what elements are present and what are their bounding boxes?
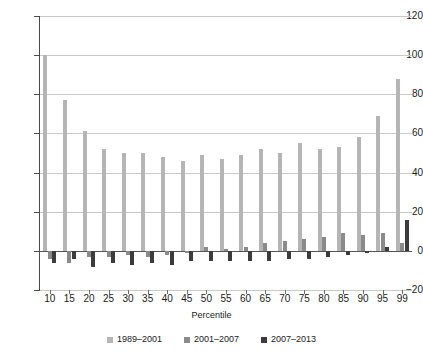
bar — [111, 251, 115, 263]
bar — [322, 237, 326, 251]
bar — [220, 159, 224, 251]
bar — [376, 116, 380, 251]
x-axis-tick-mark — [285, 290, 286, 294]
y-axis-tick-mark — [34, 94, 39, 95]
x-axis-tick-mark — [265, 290, 266, 294]
legend-item: 2007–2013 — [261, 334, 316, 345]
legend-label: 1989–2001 — [117, 334, 162, 345]
y-axis-tick-mark — [34, 290, 39, 291]
bar — [405, 220, 409, 251]
bar — [209, 251, 213, 261]
legend-swatch-icon — [107, 337, 113, 343]
bar — [298, 143, 302, 251]
bar — [170, 251, 174, 265]
bar — [385, 247, 389, 251]
y-axis-tick-mark — [34, 55, 39, 56]
gridline — [40, 16, 412, 17]
x-axis-tick-mark — [402, 290, 403, 294]
x-axis-tick-mark — [89, 290, 90, 294]
bar — [361, 235, 365, 251]
x-axis-tick-mark — [304, 290, 305, 294]
x-axis-tick-mark — [69, 290, 70, 294]
x-axis-tick-mark — [324, 290, 325, 294]
legend-label: 2001–2007 — [194, 334, 239, 345]
bar — [150, 251, 154, 263]
bar — [72, 251, 76, 259]
x-axis-tick-mark — [383, 290, 384, 294]
x-axis-tick-mark — [246, 290, 247, 294]
bar — [259, 149, 263, 251]
bar — [263, 243, 267, 251]
x-axis-tick-mark — [167, 290, 168, 294]
legend-label: 2007–2013 — [271, 334, 316, 345]
x-axis-tick-mark — [128, 290, 129, 294]
y-axis-tick-mark — [34, 133, 39, 134]
bar — [161, 157, 165, 251]
x-axis-tick-mark — [343, 290, 344, 294]
gridline — [40, 94, 412, 95]
bar — [283, 241, 287, 251]
bar — [63, 100, 67, 251]
bar — [91, 251, 95, 267]
bar — [357, 137, 361, 251]
gridline — [40, 55, 412, 56]
bar — [239, 155, 243, 251]
x-axis-tick-mark — [50, 290, 51, 294]
bar — [83, 131, 87, 250]
y-axis-tick-mark — [34, 212, 39, 213]
bar — [189, 251, 193, 261]
bar — [326, 251, 330, 257]
bar — [287, 251, 291, 259]
legend-swatch-icon — [261, 337, 267, 343]
zero-line — [40, 251, 412, 252]
x-axis-tick-mark — [363, 290, 364, 294]
plot-area — [40, 16, 412, 290]
bar — [130, 251, 134, 265]
bar — [43, 55, 47, 251]
bar — [396, 79, 400, 251]
bar — [346, 251, 350, 255]
x-axis-tick-mark — [226, 290, 227, 294]
bar — [278, 153, 282, 251]
x-axis-tick-mark — [148, 290, 149, 294]
bar — [102, 149, 106, 251]
bar — [302, 239, 306, 251]
x-axis-tick-mark — [206, 290, 207, 294]
y-axis-tick-mark — [34, 251, 39, 252]
y-axis-tick-mark — [34, 16, 39, 17]
x-axis-title: Percentile — [0, 310, 423, 321]
gridline — [40, 133, 412, 134]
x-axis-tick-mark — [109, 290, 110, 294]
bar-chart-figure: 120100806040200−20 101520253035404550556… — [0, 0, 423, 356]
bar — [181, 161, 185, 251]
bar — [318, 149, 322, 251]
bar — [141, 153, 145, 251]
x-axis-tick-label: 99 — [390, 294, 414, 304]
bar — [248, 251, 252, 261]
bar — [122, 153, 126, 251]
bar — [200, 155, 204, 251]
bar — [267, 251, 271, 261]
bar — [52, 251, 56, 263]
bar — [365, 251, 369, 253]
legend-swatch-icon — [184, 337, 190, 343]
x-axis-tick-mark — [187, 290, 188, 294]
bar — [307, 251, 311, 259]
y-axis-tick-mark — [34, 173, 39, 174]
chart-legend: 1989–20012001–20072007–2013 — [0, 334, 423, 345]
bar — [341, 233, 345, 251]
bar — [228, 251, 232, 261]
legend-item: 1989–2001 — [107, 334, 162, 345]
legend-item: 2001–2007 — [184, 334, 239, 345]
